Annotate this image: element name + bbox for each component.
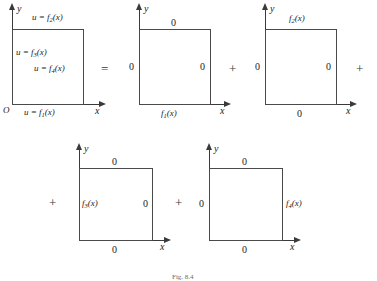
operator-plus-2: + bbox=[356, 62, 363, 75]
x-axis-label: x bbox=[346, 106, 350, 116]
x-axis-arrow-icon bbox=[164, 237, 171, 243]
figure-container: y x O u = f2(x) u = f3(x) u = f4(x) u = … bbox=[0, 0, 377, 281]
y-axis-arrow-icon bbox=[262, 3, 268, 10]
operator-plus-1: + bbox=[229, 62, 236, 75]
boundary-label-bottom: 0 bbox=[297, 109, 302, 119]
boundary-label-left: 0 bbox=[199, 199, 204, 209]
boundary-label-bottom: 0 bbox=[112, 245, 117, 255]
x-axis-label: x bbox=[95, 106, 99, 116]
y-axis-label: y bbox=[214, 144, 218, 154]
boundary-label-left: f3(x) bbox=[82, 199, 98, 209]
y-axis-arrow-icon bbox=[206, 143, 212, 150]
boundary-label-top: u = f2(x) bbox=[32, 13, 63, 23]
y-axis-label: y bbox=[144, 4, 148, 14]
y-axis-arrow-icon bbox=[136, 3, 142, 10]
boundary-label-bottom: u = f1(x) bbox=[24, 108, 55, 118]
x-axis-arrow-icon bbox=[99, 101, 106, 107]
x-axis-label: x bbox=[290, 242, 294, 252]
boundary-label-bottom: 0 bbox=[242, 245, 247, 255]
y-axis-label: y bbox=[17, 4, 21, 14]
y-axis-label: y bbox=[270, 4, 274, 14]
figure-caption: Fig. 8.4 bbox=[172, 274, 194, 281]
x-axis-arrow-icon bbox=[350, 101, 357, 107]
operator-plus-4: + bbox=[175, 196, 182, 209]
boundary-label-left: u = f3(x) bbox=[16, 48, 47, 58]
panel-subproblem-f2: y x f2(x) 0 0 0 bbox=[248, 0, 358, 125]
operator-equals: = bbox=[101, 62, 108, 75]
x-axis-label: x bbox=[160, 242, 164, 252]
origin-label: O bbox=[3, 106, 10, 115]
boundary-label-left: 0 bbox=[255, 62, 260, 72]
boundary-label-right: 0 bbox=[326, 62, 331, 72]
boundary-label-right: u = f4(x) bbox=[34, 64, 65, 74]
boundary-label-left: 0 bbox=[129, 62, 134, 72]
operator-plus-3: + bbox=[49, 196, 56, 209]
x-axis-arrow-icon bbox=[294, 237, 301, 243]
boundary-label-right: 0 bbox=[200, 62, 205, 72]
panel-subproblem-f3: y x 0 f3(x) 0 0 bbox=[62, 140, 172, 265]
boundary-label-bottom: f1(x) bbox=[161, 109, 177, 119]
panel-subproblem-f1: y x 0 0 0 f1(x) bbox=[122, 0, 232, 125]
x-axis-arrow-icon bbox=[224, 101, 231, 107]
y-axis-arrow-icon bbox=[76, 143, 82, 150]
y-axis-label: y bbox=[84, 144, 88, 154]
boundary-label-top: 0 bbox=[242, 157, 247, 167]
boundary-label-right: f4(x) bbox=[286, 199, 302, 209]
boundary-label-top: 0 bbox=[112, 157, 117, 167]
y-axis-arrow-icon bbox=[9, 3, 15, 10]
boundary-label-top: f2(x) bbox=[289, 14, 305, 24]
domain-square bbox=[209, 168, 283, 241]
boundary-label-top: 0 bbox=[171, 18, 176, 28]
boundary-label-right: 0 bbox=[143, 199, 148, 209]
panel-subproblem-f4: y x 0 0 f4(x) 0 bbox=[192, 140, 322, 265]
panel-original-problem: y x O u = f2(x) u = f3(x) u = f4(x) u = … bbox=[0, 0, 105, 120]
x-axis-label: x bbox=[220, 106, 224, 116]
